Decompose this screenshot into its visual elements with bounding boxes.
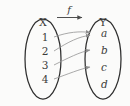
function-mapping-diagram: X Y f 1 2 3 4 a b c d — [0, 0, 130, 106]
domain-element-3: 3 — [42, 59, 49, 71]
domain-set-label: X — [39, 16, 47, 29]
codomain-element-c: c — [101, 61, 107, 73]
function-label: f — [66, 4, 73, 15]
codomain-element-a: a — [101, 27, 107, 39]
codomain-element-d: d — [101, 78, 108, 90]
domain-element-2: 2 — [42, 45, 49, 57]
domain-element-4: 4 — [42, 73, 49, 85]
codomain-element-b: b — [101, 44, 108, 56]
domain-element-1: 1 — [42, 31, 49, 43]
